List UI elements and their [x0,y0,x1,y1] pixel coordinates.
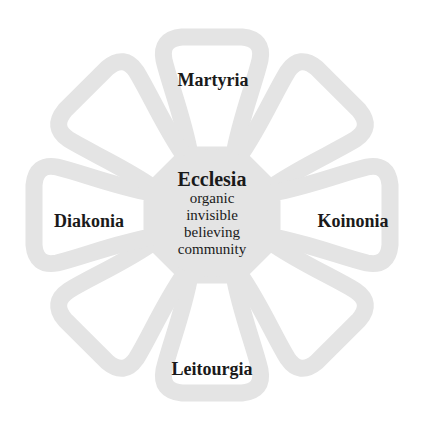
petal-label-martyria: Martyria [178,70,249,91]
petal-label-diakonia: Diakonia [54,211,124,232]
center-line-2: invisible [178,207,247,224]
petal-label-leitourgia: Leitourgia [172,359,253,380]
center-line-3: believing [178,224,247,241]
center-line-1: organic [178,190,247,207]
center-line-4: community [178,241,247,258]
church-flower-diagram: Martyria Koinonia Leitourgia Diakonia Ec… [0,0,421,431]
center-title: Ecclesia [178,168,247,190]
petal-label-koinonia: Koinonia [317,211,388,232]
center-text: Ecclesia organic invisible believing com… [178,168,247,258]
